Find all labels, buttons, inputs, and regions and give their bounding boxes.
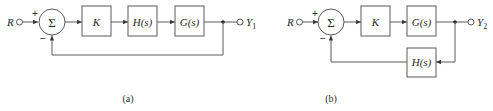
input-label-r: R: [6, 16, 14, 28]
input-terminal: [17, 19, 23, 25]
block-k-label: K: [92, 16, 101, 28]
caption-b: (b): [325, 93, 337, 105]
minus-sign: −: [320, 33, 326, 44]
output-terminal: [468, 19, 474, 25]
sigma-symbol: Σ: [48, 15, 56, 30]
feedback-to-sum-path: [331, 36, 407, 63]
feedback-to-h-path: [436, 22, 455, 62]
block-g-label: G(s): [412, 16, 432, 29]
diagram-a: R + − Σ K H(s) G(s) Y1 (a): [6, 6, 256, 105]
block-k-label: K: [371, 16, 380, 28]
output-terminal: [237, 19, 243, 25]
input-label-r: R: [286, 16, 294, 28]
minus-sign: −: [40, 33, 46, 44]
output-label-y: Y1: [246, 16, 256, 31]
diagram-b: R + − Σ K G(s) Y2 H(s) (b): [286, 6, 487, 105]
plus-sign: +: [312, 8, 318, 19]
block-h-label: H(s): [411, 56, 432, 69]
caption-a: (a): [122, 93, 133, 105]
block-h-label: H(s): [132, 16, 153, 29]
block-diagrams: R + − Σ K H(s) G(s) Y1 (a) R + − Σ: [0, 0, 493, 111]
block-g-label: G(s): [180, 16, 200, 29]
plus-sign: +: [32, 8, 38, 19]
input-terminal: [297, 19, 303, 25]
output-label-y: Y2: [477, 16, 487, 31]
sigma-symbol: Σ: [327, 15, 335, 30]
